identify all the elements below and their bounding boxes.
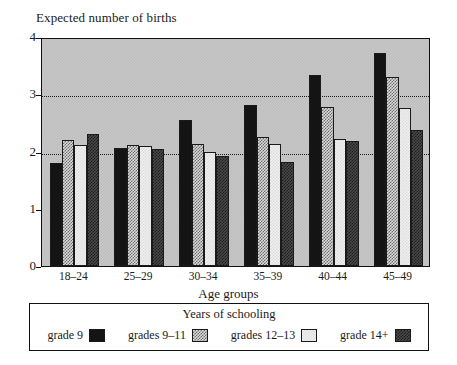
bar — [74, 145, 86, 266]
swatch-grades-12-13 — [301, 329, 317, 342]
bar — [204, 152, 216, 266]
legend-item-label: grade 14+ — [340, 328, 388, 343]
bar — [127, 145, 139, 266]
gridline — [42, 96, 429, 97]
bar-group — [114, 39, 164, 266]
gridline — [42, 154, 429, 155]
bar — [257, 137, 269, 266]
legend: Years of schooling grade 9grades 9–11gra… — [29, 303, 429, 351]
bar — [309, 75, 321, 266]
plot-background — [42, 39, 429, 266]
bar — [50, 163, 62, 266]
legend-title: Years of schooling — [30, 307, 428, 322]
bar — [374, 53, 386, 266]
bar-group — [179, 39, 229, 266]
legend-item-label: grades 12–13 — [231, 328, 295, 343]
bar-group — [50, 39, 100, 266]
y-tick-label: 3 — [6, 87, 36, 100]
bar — [399, 108, 411, 266]
bar — [179, 120, 191, 266]
y-tick-label: 4 — [6, 30, 36, 43]
bar — [321, 107, 333, 266]
legend-item[interactable]: grade 9 — [47, 328, 105, 343]
bar — [139, 146, 151, 266]
x-tick-label: 35–39 — [236, 270, 301, 282]
bar — [386, 77, 398, 266]
x-axis-title: Age groups — [0, 286, 457, 302]
legend-item[interactable]: grade 14+ — [340, 328, 410, 343]
y-axis-title: Expected number of births — [36, 10, 177, 26]
swatch-grade-14-plus — [395, 329, 411, 342]
bar — [114, 148, 126, 267]
bar — [346, 141, 358, 266]
x-tick-label: 30–34 — [171, 270, 236, 282]
swatch-grade-9 — [89, 329, 105, 342]
bar — [192, 144, 204, 266]
bar-group — [374, 39, 424, 266]
bar — [152, 149, 164, 266]
y-tick-label: 2 — [6, 145, 36, 158]
x-tick-label: 25–29 — [106, 270, 171, 282]
bar — [411, 130, 423, 266]
bar — [244, 105, 256, 266]
y-tick-mark — [36, 267, 41, 268]
x-tick-label: 40–44 — [300, 270, 365, 282]
legend-item[interactable]: grades 12–13 — [231, 328, 317, 343]
bar — [334, 139, 346, 266]
bar — [87, 134, 99, 266]
bar-group — [309, 39, 359, 266]
legend-items: grade 9grades 9–11grades 12–13grade 14+ — [30, 328, 428, 343]
bar — [216, 156, 228, 266]
bar — [269, 144, 281, 267]
x-tick-label: 18–24 — [41, 270, 106, 282]
bar-group — [244, 39, 294, 266]
plot-area — [41, 38, 430, 267]
legend-item-label: grade 9 — [47, 328, 83, 343]
chart-figure: Expected number of births 01234 18–2425–… — [0, 0, 457, 365]
bar — [62, 140, 74, 266]
y-tick-label: 1 — [6, 202, 36, 215]
legend-item-label: grades 9–11 — [128, 328, 186, 343]
x-tick-label: 45–49 — [365, 270, 430, 282]
bar — [281, 162, 293, 266]
y-tick-label: 0 — [6, 259, 36, 272]
legend-item[interactable]: grades 9–11 — [128, 328, 208, 343]
swatch-grades-9-11 — [192, 329, 208, 342]
